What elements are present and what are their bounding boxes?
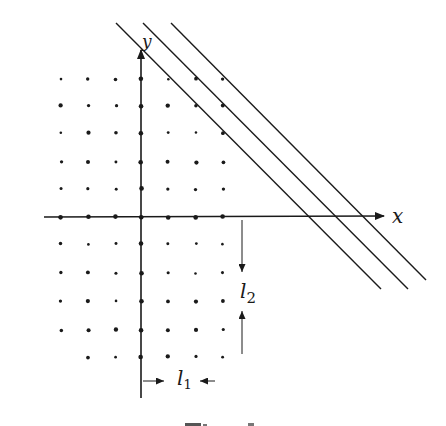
l1-dimension: l1 [143,366,215,392]
lattice-point [58,103,62,107]
lattice-point [86,131,90,135]
lattice-point [114,160,117,163]
line-1 [116,23,381,289]
y-axis-label: y [141,31,152,51]
lattice-point [221,271,224,274]
line-3 [171,23,426,280]
l2-label: l2 [240,279,256,307]
lattice-point [166,242,169,245]
lattice-point [114,78,118,82]
lattice-point [114,327,118,331]
lattice-point [60,187,63,190]
lattice-point [86,270,90,274]
l1-label: l1 [177,366,192,392]
lattice-point [87,243,90,246]
x-axis [44,216,384,217]
lattice-point [60,132,63,135]
lattice-point [59,242,62,245]
parallel-lines [116,23,426,289]
l2-dimension: l2 [240,220,256,354]
lattice-point [86,356,90,360]
lattice-point [194,160,198,164]
lattice-point [166,328,170,332]
lattice-point [86,187,89,190]
lattice-point [114,356,117,359]
lattice-point [87,104,90,107]
lattice-point [166,187,169,190]
lattice-point [87,328,91,332]
lattice-point [167,131,170,134]
lattice-point [221,77,224,80]
lattice-point [194,328,198,332]
lattice-point [59,271,62,274]
lattice-point [115,104,118,107]
lattice-point [194,272,197,275]
lattice-point [222,187,225,190]
lattice-point [194,188,197,191]
lattice-point [166,160,170,164]
lattice-point [195,242,198,245]
lattice-point [166,103,170,107]
lattice-point [222,160,226,164]
lattice-point [166,354,170,358]
lattice-point [115,188,118,191]
line-2 [143,23,408,289]
lattice-point [221,243,224,246]
lattice-point [86,77,89,80]
lattice-point [195,131,197,133]
lattice-point [222,328,225,331]
lattice-point [115,300,118,303]
lattice-point [59,299,62,302]
lattice-point [86,299,90,303]
lattice-point [221,299,225,303]
lattice-point [60,329,63,332]
lattice-point [166,300,170,304]
lattice-point [167,78,170,81]
lattice-point [115,242,118,245]
lattice-point [194,355,197,358]
lattice-point [114,131,118,135]
lattice-point [167,271,170,274]
lattice-point [60,160,63,163]
lattice-point [221,356,224,359]
lattice-point [86,160,90,164]
lattice-point [114,272,117,275]
x-axis-label: x [392,204,403,228]
lattice-figure: x y l2 l1 [0,0,446,426]
lattice-point [194,299,198,303]
lattice-point [60,78,63,81]
